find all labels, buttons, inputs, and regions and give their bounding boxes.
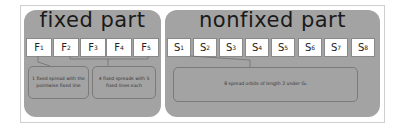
box-index: 1 xyxy=(40,44,44,51)
spread-box-f2: F2 xyxy=(53,38,79,57)
fixed-part-panel: fixed part xyxy=(24,10,161,117)
spread-box-s1: S1 xyxy=(167,38,191,57)
spread-box-s2: S2 xyxy=(193,38,217,57)
box-index: 4 xyxy=(120,44,124,51)
callout-spread-orbits: 8 spread orbits of length 2 under G₁ xyxy=(173,67,358,102)
box-index: 3 xyxy=(94,44,98,51)
box-index: 2 xyxy=(67,44,71,51)
callout-text: 8 spread orbits of length 2 under G₁ xyxy=(224,81,307,87)
spread-box-s4: S4 xyxy=(245,38,269,57)
nonfixed-part-title: nonfixed part xyxy=(165,8,380,32)
box-index: 5 xyxy=(147,44,151,51)
callout-text: 1 fixed spread with the pointwise fixed … xyxy=(29,76,88,88)
spread-box-f4: F4 xyxy=(106,38,132,57)
spread-box-s5: S5 xyxy=(271,38,295,57)
box-index: 4 xyxy=(258,44,262,51)
spread-box-s7: S7 xyxy=(324,38,348,57)
spread-box-s3: S3 xyxy=(219,38,243,57)
fixed-part-title: fixed part xyxy=(24,8,161,32)
box-index: 8 xyxy=(364,44,368,51)
spread-box-f5: F5 xyxy=(133,38,159,57)
spread-box-s6: S6 xyxy=(298,38,322,57)
box-index: 7 xyxy=(337,44,341,51)
box-index: 3 xyxy=(232,44,236,51)
box-index: 5 xyxy=(284,44,288,51)
callout-text: 4 fixed spreads with 5 fixed lines each xyxy=(93,76,155,88)
callout-fixed-spreads: 4 fixed spreads with 5 fixed lines each xyxy=(92,66,156,99)
callout-pointwise-fixed: 1 fixed spread with the pointwise fixed … xyxy=(28,66,89,99)
box-index: 6 xyxy=(311,44,315,51)
spread-box-f3: F3 xyxy=(80,38,106,57)
spread-box-s8: S8 xyxy=(351,38,375,57)
box-index: 2 xyxy=(206,44,210,51)
box-index: 1 xyxy=(180,44,184,51)
spread-box-f1: F1 xyxy=(26,38,52,57)
